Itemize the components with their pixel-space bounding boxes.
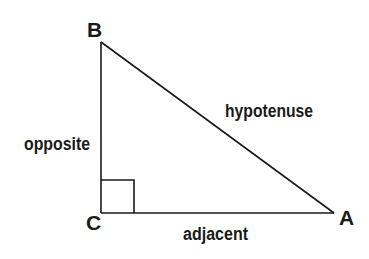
- vertex-label-c: C: [86, 211, 101, 234]
- vertex-label-b: B: [87, 18, 102, 41]
- side-label-opposite: opposite: [24, 134, 90, 154]
- right-triangle-diagram: B C A opposite hypotenuse adjacent: [0, 0, 369, 259]
- side-label-adjacent: adjacent: [183, 224, 248, 244]
- vertex-label-a: A: [339, 206, 354, 229]
- side-hypotenuse-line: [101, 42, 334, 213]
- side-label-hypotenuse: hypotenuse: [225, 101, 313, 121]
- right-angle-marker: [101, 180, 134, 213]
